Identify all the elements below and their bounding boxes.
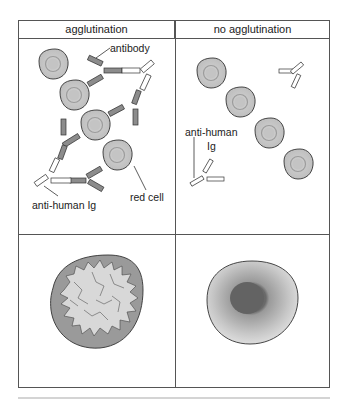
red-cell [255,118,284,148]
free-anti-human-ig [190,159,224,186]
red-cell [103,140,132,170]
no-agglutination-diagram [190,58,313,186]
agglutination-diagram [34,48,154,196]
free-anti-human-ig [279,62,304,88]
red-cell [284,149,313,179]
anti-human-label-line2: Ig [207,140,216,152]
red-cell [226,87,255,117]
red-cell [39,49,68,79]
red-cell-label: red cell [130,191,164,203]
agglutinated-cell-clump [51,255,143,348]
anti-human-label-line1: anti-human [185,126,238,138]
red-cell [60,80,89,110]
red-cell [81,110,110,140]
anti-human-ig-label: anti-human Ig [32,199,96,211]
antibody-label: antibody [110,42,150,54]
red-cell [197,58,226,88]
dispersed-cell [207,261,298,344]
footer-rule [18,397,330,399]
